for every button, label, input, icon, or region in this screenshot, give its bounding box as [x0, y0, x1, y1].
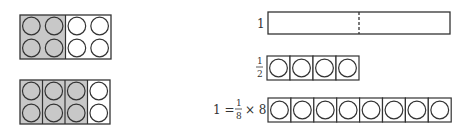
- fraction-diagram: 1 1 2 1 = 1 8 × 8: [0, 0, 460, 134]
- empty-counter: [91, 17, 109, 35]
- counter: [271, 101, 289, 119]
- eighths-label-numerator: 1: [236, 98, 242, 108]
- counter: [385, 101, 403, 119]
- left-model-half-shaded: [20, 15, 111, 59]
- eighths-label-denominator: 8: [236, 111, 242, 121]
- counter: [316, 59, 334, 77]
- shaded-counter: [45, 82, 63, 100]
- shaded-counter: [45, 39, 63, 57]
- shaded-counter: [23, 39, 41, 57]
- counter: [293, 101, 311, 119]
- empty-counter: [91, 39, 109, 57]
- half-bar-group: 1 2: [256, 56, 359, 80]
- counter: [339, 101, 357, 119]
- left-model-three-quarters-shaded: [20, 80, 110, 124]
- shaded-counter: [67, 104, 85, 122]
- eighths-label-prefix: 1 =: [213, 103, 235, 117]
- shaded-counter: [22, 104, 40, 122]
- shaded-counter: [45, 104, 63, 122]
- empty-counter: [90, 82, 108, 100]
- half-label-denominator: 2: [257, 69, 263, 79]
- half-label-numerator: 1: [257, 56, 263, 66]
- eighths-counter-bar: [268, 98, 451, 122]
- eighths-bar-group: 1 = 1 8 × 8: [213, 98, 451, 122]
- counter: [339, 59, 357, 77]
- half-counter-bar: [267, 56, 359, 80]
- counter: [316, 101, 334, 119]
- whole-label: 1: [257, 17, 265, 31]
- counter: [270, 59, 288, 77]
- counter: [408, 101, 426, 119]
- shaded-counter: [22, 82, 40, 100]
- eighths-label-suffix: × 8: [245, 103, 267, 117]
- empty-counter: [68, 17, 86, 35]
- empty-counter: [68, 39, 86, 57]
- counter: [362, 101, 380, 119]
- counter: [293, 59, 311, 77]
- shaded-counter: [45, 17, 63, 35]
- whole-bar-group: 1: [257, 12, 450, 34]
- counter: [431, 101, 449, 119]
- shaded-counter: [23, 17, 41, 35]
- empty-counter: [90, 104, 108, 122]
- shaded-counter: [67, 82, 85, 100]
